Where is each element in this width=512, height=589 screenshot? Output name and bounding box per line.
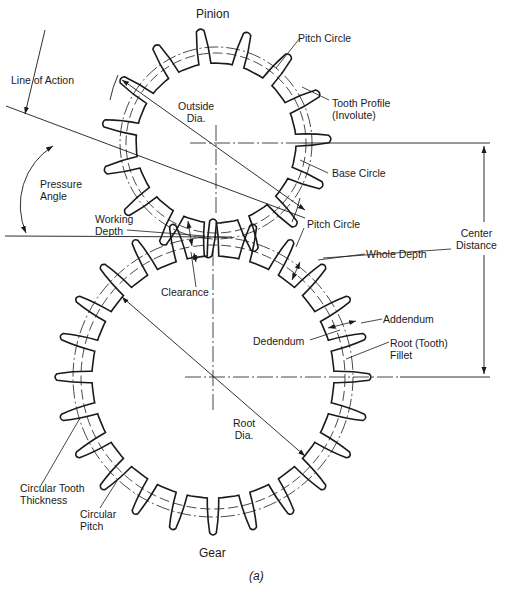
pinion-title: Pinion [196,8,229,20]
gear-title: Gear [199,547,226,559]
pinion-center-lines [190,125,300,215]
label-addendum: Addendum [383,313,434,325]
label-base-circle: Base Circle [332,167,386,179]
root-dia-dimension [122,297,305,456]
outside-dia-dimension [110,75,305,222]
pressure-angle-construction [5,30,305,237]
figure-caption: (a) [249,570,264,582]
label-dedendum: Dedendum [253,335,304,347]
label-whole-depth: Whole Depth [366,248,427,260]
label-working-depth: Working Depth [95,213,133,237]
label-circular-tooth-thickness: Circular Tooth Thickness [20,482,85,506]
label-root-dia: Root Dia. [233,417,255,441]
label-pitch-circle-pinion: Pitch Circle [298,32,351,44]
gear-center-lines [185,250,400,410]
label-outside-dia: Outside Dia. [178,100,214,124]
label-clearance: Clearance [161,286,209,298]
label-pitch-circle-gear: Pitch Circle [307,218,360,230]
label-root-fillet: Root (Tooth) Fillet [390,337,448,361]
label-tooth-profile: Tooth Profile (Involute) [332,97,390,121]
label-pressure-angle: Pressure Angle [40,178,82,202]
label-circular-pitch: Circular Pitch [80,508,116,532]
label-line-of-action: Line of Action [11,74,74,86]
label-center-distance: Center Distance [456,227,497,251]
